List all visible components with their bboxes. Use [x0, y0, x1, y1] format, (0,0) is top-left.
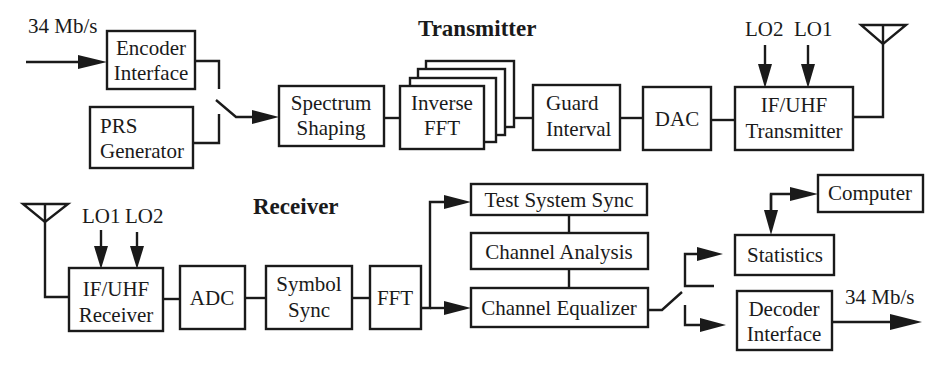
rx-lo2-label: LO2	[125, 204, 164, 228]
rx-selector-switch	[648, 247, 726, 332]
svg-text:Spectrum: Spectrum	[291, 91, 371, 115]
block-inverse-fft-stack: Inverse FFT	[400, 61, 514, 149]
svg-text:Encoder: Encoder	[116, 36, 186, 60]
block-channel-equalizer: Channel Equalizer	[471, 288, 648, 327]
tx-input-rate-label: 34 Mb/s	[28, 14, 97, 38]
svg-text:Statistics: Statistics	[747, 243, 823, 267]
svg-text:PRS: PRS	[100, 114, 137, 138]
svg-text:Test System Sync: Test System Sync	[484, 188, 633, 212]
svg-text:Interface: Interface	[114, 61, 189, 85]
block-dac: DAC	[643, 87, 711, 150]
tx-selector-switch	[193, 61, 279, 143]
block-computer: Computer	[818, 175, 923, 212]
block-symbol-sync: Symbol Sync	[266, 266, 352, 329]
svg-text:Computer: Computer	[828, 181, 912, 205]
svg-text:IF/UHF: IF/UHF	[83, 277, 150, 301]
block-statistics: Statistics	[735, 235, 834, 275]
block-fft: FFT	[370, 266, 421, 329]
rx-lo1-label: LO1	[82, 204, 121, 228]
svg-text:Inverse: Inverse	[411, 91, 473, 115]
svg-text:Symbol: Symbol	[276, 272, 342, 296]
svg-text:IF/UHF: IF/UHF	[761, 93, 828, 117]
ofdm-system-block-diagram: Transmitter 34 Mb/s Encoder Interface PR…	[0, 0, 947, 368]
tx-antenna-icon	[853, 25, 906, 117]
block-guard-interval: Guard Interval	[533, 85, 620, 150]
svg-text:Shaping: Shaping	[297, 116, 366, 140]
block-channel-analysis: Channel Analysis	[471, 233, 648, 269]
tx-lo2-label: LO2	[745, 17, 784, 41]
rx-lo-arrows	[94, 230, 144, 269]
svg-text:Interval: Interval	[546, 117, 611, 141]
svg-text:Receiver: Receiver	[79, 303, 154, 327]
rx-output-arrow	[832, 314, 922, 330]
svg-text:Transmitter: Transmitter	[745, 119, 842, 143]
rx-antenna-icon	[23, 204, 69, 297]
svg-text:ADC: ADC	[190, 286, 234, 310]
receiver-title: Receiver	[253, 194, 339, 219]
block-encoder-interface: Encoder Interface	[107, 31, 195, 89]
svg-text:Decoder: Decoder	[748, 297, 819, 321]
block-decoder-interface: Decoder Interface	[737, 291, 832, 350]
svg-text:FFT: FFT	[377, 286, 413, 310]
tx-lo-arrows	[758, 45, 815, 88]
block-adc: ADC	[180, 266, 245, 329]
block-test-system-sync: Test System Sync	[471, 184, 647, 215]
svg-text:FFT: FFT	[424, 116, 460, 140]
svg-text:DAC: DAC	[655, 107, 699, 131]
svg-text:Channel Equalizer: Channel Equalizer	[481, 296, 637, 320]
block-if-uhf-receiver: IF/UHF Receiver	[69, 268, 163, 331]
block-spectrum-shaping: Spectrum Shaping	[279, 86, 384, 146]
svg-text:Sync: Sync	[288, 298, 330, 322]
tx-input-arrow	[26, 55, 107, 69]
svg-text:Channel Analysis: Channel Analysis	[485, 240, 633, 264]
transmitter-title: Transmitter	[418, 16, 536, 41]
tx-lo1-label: LO1	[794, 17, 833, 41]
fft-fanout-arrows	[421, 195, 471, 315]
stats-computer-link-arrows	[764, 187, 818, 235]
svg-text:Generator: Generator	[100, 139, 184, 163]
block-if-uhf-transmitter: IF/UHF Transmitter	[735, 87, 853, 150]
block-prs-generator: PRS Generator	[90, 107, 193, 168]
svg-text:Interface: Interface	[747, 322, 822, 346]
svg-text:Guard: Guard	[546, 91, 599, 115]
rx-output-rate-label: 34 Mb/s	[845, 285, 914, 309]
